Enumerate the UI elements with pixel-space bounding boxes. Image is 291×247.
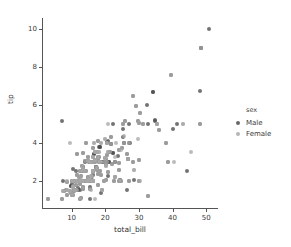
- data-point: [127, 179, 131, 183]
- x-axis-label: total_bill: [42, 225, 218, 234]
- x-tick-mark: [173, 209, 174, 212]
- data-point: [93, 197, 97, 201]
- data-point: [89, 188, 93, 192]
- x-tick-label: 40: [168, 214, 177, 222]
- data-point: [71, 179, 75, 183]
- x-tick-label: 50: [202, 214, 211, 222]
- y-tick-label: 10: [28, 25, 37, 33]
- data-point: [122, 134, 126, 138]
- data-point: [109, 142, 113, 146]
- data-point: [91, 169, 95, 173]
- data-point: [175, 122, 179, 126]
- data-point: [68, 141, 72, 145]
- y-axis-label: tip: [6, 94, 15, 104]
- data-point: [132, 168, 136, 172]
- data-point: [96, 183, 100, 187]
- data-point: [100, 188, 104, 192]
- x-tick-mark: [72, 209, 73, 212]
- data-point: [189, 150, 193, 154]
- y-tick-label: 8: [33, 63, 37, 71]
- data-point: [74, 179, 78, 183]
- data-point: [91, 179, 95, 183]
- data-point: [46, 197, 50, 201]
- data-point: [125, 152, 129, 156]
- legend-title: sex: [246, 106, 289, 114]
- data-point: [145, 103, 149, 107]
- data-point: [172, 160, 176, 164]
- y-tick-mark: [39, 105, 42, 106]
- x-axis-spine: [42, 208, 218, 209]
- data-point: [88, 197, 92, 201]
- data-point: [164, 141, 168, 145]
- data-point: [169, 73, 173, 77]
- y-tick-label: 4: [33, 139, 37, 147]
- data-point: [117, 168, 121, 172]
- data-point: [65, 193, 69, 197]
- data-point: [106, 122, 110, 126]
- data-point: [171, 127, 175, 131]
- y-tick-mark: [39, 67, 42, 68]
- legend-item-male[interactable]: Male: [233, 117, 289, 128]
- data-point: [111, 122, 115, 126]
- data-point: [146, 194, 150, 198]
- y-tick-mark: [39, 143, 42, 144]
- data-point: [88, 160, 92, 164]
- data-point: [141, 122, 145, 126]
- data-point: [72, 189, 76, 193]
- data-point: [106, 170, 110, 174]
- data-point: [97, 155, 101, 159]
- data-point: [114, 141, 118, 145]
- data-point: [79, 169, 83, 173]
- data-point: [117, 161, 121, 165]
- data-point: [131, 94, 135, 98]
- y-tick-mark: [39, 181, 42, 182]
- y-tick-label: 2: [33, 177, 37, 185]
- data-point: [105, 141, 109, 145]
- data-point: [113, 155, 117, 159]
- x-tick-label: 10: [67, 214, 76, 222]
- data-point: [157, 128, 161, 132]
- data-point: [99, 160, 103, 164]
- legend-label-female: Female: [246, 130, 271, 138]
- x-tick-mark: [206, 209, 207, 212]
- data-point: [121, 127, 125, 131]
- y-tick-label: 6: [33, 101, 37, 109]
- legend-marker-female-icon: [236, 132, 240, 136]
- data-point: [126, 157, 130, 161]
- data-point: [81, 151, 85, 155]
- y-axis-spine: [42, 18, 43, 208]
- data-point: [70, 193, 74, 197]
- data-point: [155, 122, 159, 126]
- data-point: [99, 173, 103, 177]
- data-point: [83, 159, 87, 163]
- legend-label-male: Male: [246, 119, 263, 127]
- x-tick-mark: [139, 209, 140, 212]
- data-point: [151, 90, 155, 94]
- data-point: [99, 141, 103, 145]
- data-point: [127, 122, 131, 126]
- data-point: [120, 146, 124, 150]
- data-point: [198, 89, 202, 93]
- data-point: [199, 46, 203, 50]
- data-point: [84, 141, 88, 145]
- data-point: [138, 179, 142, 183]
- data-point: [80, 179, 84, 183]
- data-point: [94, 165, 98, 169]
- data-point: [78, 197, 82, 201]
- data-point: [181, 122, 185, 126]
- data-point: [125, 188, 129, 192]
- data-point: [131, 160, 135, 164]
- data-point: [97, 150, 101, 154]
- data-point: [136, 137, 140, 141]
- data-point: [60, 119, 64, 123]
- data-point: [109, 135, 113, 139]
- legend: sex Male Female: [233, 106, 289, 139]
- data-point: [92, 141, 96, 145]
- data-point: [60, 197, 64, 201]
- data-point: [110, 162, 114, 166]
- data-point: [198, 122, 202, 126]
- legend-item-female[interactable]: Female: [233, 128, 289, 139]
- data-point: [122, 141, 126, 145]
- data-point: [123, 119, 127, 123]
- legend-marker-male-icon: [236, 121, 240, 125]
